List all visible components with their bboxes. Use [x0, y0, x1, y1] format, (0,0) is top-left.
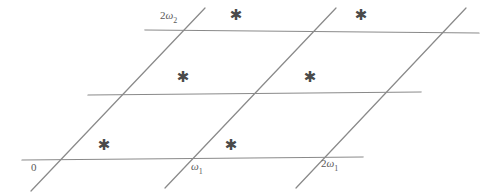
horizontal-lines-group [22, 30, 479, 160]
diagonal-line-left [31, 8, 205, 191]
two-omega2-label: 2ω2 [160, 10, 177, 24]
asterisk-icon-row1-col1: ✱ [98, 138, 111, 153]
asterisk-icon-row3-col2: ✱ [355, 8, 368, 23]
omega1-label-subscript: 1 [199, 167, 203, 176]
two-omega2-label-subscript: 2 [173, 16, 177, 25]
asterisk-icon-row1-col2: ✱ [225, 138, 238, 153]
diagonal-lines-group [31, 8, 466, 191]
omega1-label-symbol: ω [191, 160, 199, 172]
origin-label-text: 0 [31, 161, 37, 173]
lattice-grid-svg [0, 0, 499, 193]
omega1-label: ω1 [191, 161, 203, 175]
asterisk-icon-row3-col1: ✱ [230, 8, 243, 23]
asterisk-icon-row2-col1: ✱ [177, 70, 190, 85]
origin-label: 0 [31, 162, 37, 173]
period-lattice-figure: ✱ ✱ ✱ ✱ ✱ ✱ 0 ω1 2ω1 2ω2 [0, 0, 499, 193]
two-omega1-label-subscript: 1 [334, 164, 338, 173]
two-omega1-label: 2ω1 [321, 158, 338, 172]
asterisk-icon-row2-col2: ✱ [304, 70, 317, 85]
